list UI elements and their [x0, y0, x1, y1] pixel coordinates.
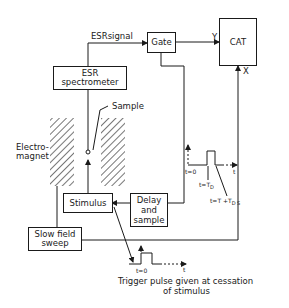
delay-sample-block: Delay and sample — [130, 193, 168, 227]
t-axis-lower-label: t — [183, 266, 185, 273]
sample-label: Sample — [112, 102, 144, 111]
t-td-label: t=TD — [199, 181, 214, 191]
t0-lower-label: t=0 — [136, 267, 147, 274]
t-tdts-sub: D S — [232, 200, 241, 206]
stimulus-label: Stimulus — [70, 199, 107, 208]
magnet-pole-left — [50, 118, 74, 186]
magnet-pole-right — [101, 118, 125, 186]
sweep-label-line2: sweep — [41, 239, 68, 248]
gate-block: Gate — [147, 32, 176, 53]
t0-upper-label: t=0 — [185, 168, 196, 175]
x-input-label: X — [243, 67, 249, 76]
t-td-text: t=T — [199, 181, 210, 188]
trigger-caption-line1: Trigger pulse given at cessation — [118, 277, 253, 286]
esr-signal-label: ESRsignal — [91, 32, 133, 41]
cat-block: CAT — [219, 18, 257, 66]
esr-label-line2: spectrometer — [61, 78, 118, 87]
esr-spectrometer-block: ESR spectrometer — [53, 66, 127, 90]
delay-label-line3: sample — [134, 215, 165, 225]
delay-label-line2: and — [141, 205, 157, 215]
t-td-sub: D — [210, 184, 214, 190]
slow-field-sweep-block: Slow field sweep — [28, 227, 82, 251]
stimulus-block: Stimulus — [63, 193, 113, 213]
gate-label: Gate — [151, 38, 171, 47]
t-tdts-text: t=T +T — [210, 197, 232, 204]
y-input-label: Y — [212, 33, 217, 42]
trigger-caption-line2: of stimulus — [163, 287, 210, 296]
cat-label: CAT — [230, 38, 246, 47]
t-axis-upper-label: t — [233, 168, 235, 175]
electromagnet-label-line2: magnet — [16, 152, 49, 161]
sample-icon — [86, 150, 90, 154]
t-tdts-label: t=T +TD S — [210, 197, 240, 207]
delay-label-line1: Delay — [137, 195, 161, 205]
